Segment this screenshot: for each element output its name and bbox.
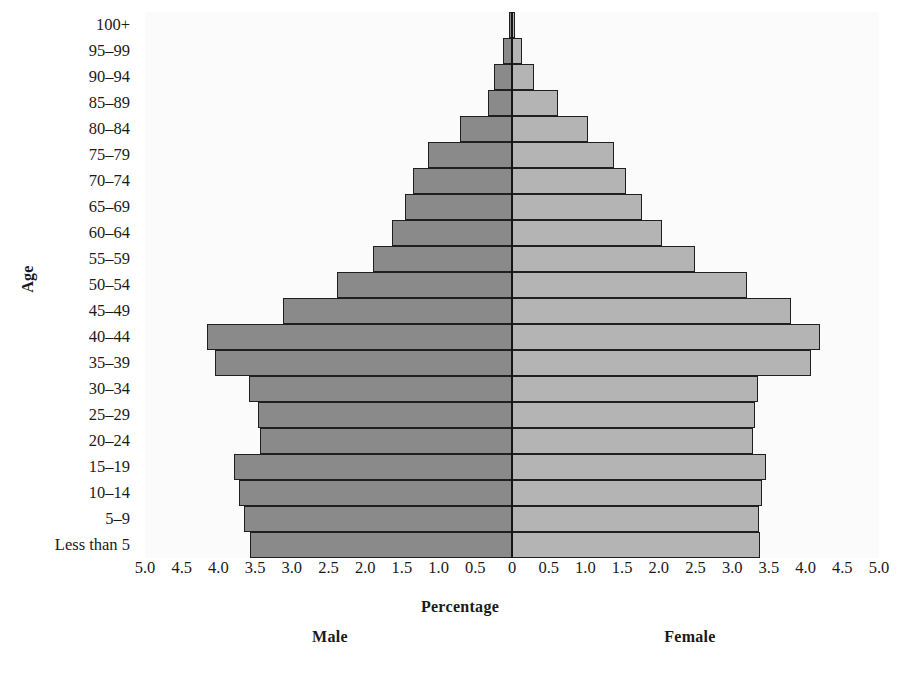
bar-female [512,142,614,168]
bar-female [512,194,642,220]
bar-male [283,298,512,324]
y-tick-label: 85–89 [89,95,130,112]
y-tick-label: 15–19 [89,459,130,476]
bar-male [494,64,512,90]
legend-label-male: Male [312,628,348,646]
bar-male [392,220,512,246]
y-axis-tick-labels: 100+95–9990–9485–8980–8475–7970–7465–696… [0,12,138,558]
plot-area [145,12,879,558]
bar-female [512,220,662,246]
bar-male [250,532,512,558]
x-tick-label: 5.0 [135,560,156,577]
y-tick-label: 30–34 [89,381,130,398]
bar-female [512,532,760,558]
x-tick-label: 3.5 [245,560,266,577]
bar-female [512,324,820,350]
bar-male [428,142,512,168]
bar-female [512,246,695,272]
x-axis-title: Percentage [0,598,920,616]
x-tick-label: 1.0 [575,560,596,577]
bar-female [512,454,766,480]
bar-male [234,454,512,480]
bar-female [512,428,753,454]
legend-label-female: Female [664,628,716,646]
bar-male [413,168,512,194]
y-tick-label: 70–74 [89,173,130,190]
y-tick-label: 5–9 [105,511,130,528]
x-tick-label: 0 [508,560,516,577]
y-tick-label: 20–24 [89,433,130,450]
y-tick-label: 50–54 [89,277,130,294]
x-tick-label: 1.5 [612,560,633,577]
bar-female [512,376,758,402]
bar-male [239,480,512,506]
x-tick-label: 4.0 [795,560,816,577]
y-tick-label: 100+ [96,17,130,34]
x-tick-label: 2.5 [318,560,339,577]
x-tick-label: 3.5 [759,560,780,577]
x-tick-label: 0.5 [538,560,559,577]
y-tick-label: Less than 5 [55,537,130,554]
x-tick-label: 1.0 [428,560,449,577]
bar-female [512,480,762,506]
bar-male [373,246,512,272]
bar-female [512,64,534,90]
bar-female [512,168,626,194]
y-tick-label: 25–29 [89,407,130,424]
y-tick-label: 95–99 [89,43,130,60]
y-tick-label: 75–79 [89,147,130,164]
y-tick-label: 65–69 [89,199,130,216]
x-tick-label: 5.0 [869,560,890,577]
x-tick-label: 4.0 [208,560,229,577]
bar-male [488,90,512,116]
x-tick-label: 4.5 [171,560,192,577]
bar-female [512,90,558,116]
x-tick-label: 0.5 [465,560,486,577]
x-tick-label: 2.0 [355,560,376,577]
bar-female [512,402,755,428]
bar-male [260,428,512,454]
x-tick-label: 4.5 [832,560,853,577]
bar-female [512,350,811,376]
x-tick-label: 3.0 [722,560,743,577]
y-tick-label: 45–49 [89,303,130,320]
bar-male [337,272,512,298]
bar-female [512,38,522,64]
bar-male [460,116,512,142]
bar-male [215,350,512,376]
y-tick-label: 10–14 [89,485,130,502]
bar-male [244,506,512,532]
bar-male [405,194,512,220]
y-tick-label: 90–94 [89,69,130,86]
x-tick-label: 2.5 [685,560,706,577]
bar-female [512,298,791,324]
bar-male [258,402,512,428]
x-tick-label: 2.0 [648,560,669,577]
y-tick-label: 40–44 [89,329,130,346]
bar-female [512,506,759,532]
population-pyramid-chart: Age 100+95–9990–9485–8980–8475–7970–7465… [0,0,920,680]
y-tick-label: 60–64 [89,225,130,242]
x-tick-label: 3.0 [281,560,302,577]
bar-male [249,376,512,402]
bar-female [512,116,588,142]
x-axis-tick-labels: 5.04.54.03.53.02.52.01.51.00.500.51.01.5… [145,560,879,586]
center-axis-line [511,12,514,558]
y-tick-label: 80–84 [89,121,130,138]
bar-male [207,324,512,350]
bar-female [512,272,747,298]
y-tick-label: 35–39 [89,355,130,372]
y-tick-label: 55–59 [89,251,130,268]
x-tick-label: 1.5 [392,560,413,577]
